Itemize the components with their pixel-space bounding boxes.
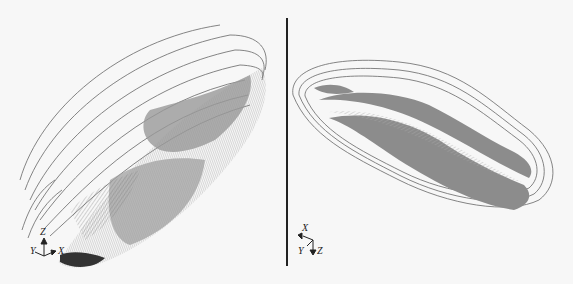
axis-label-x: X [58,245,64,256]
pit-bench-top-shaded [314,85,354,94]
axis-triad-left [35,238,56,256]
axis-label-z: Z [40,226,46,237]
axis-label-y: Y [298,245,304,256]
axis-label-y: Y [30,245,36,256]
figure: Z Y X [0,0,573,284]
pit-plan-render [289,0,573,284]
panel-divider [286,18,288,266]
right-panel-pit-plan-view: X Y Z [289,0,573,284]
left-panel-pit-oblique-view: Z Y X [0,0,286,284]
axis-label-z: Z [317,245,323,256]
pit-oblique-render [0,0,286,284]
axis-label-x: X [302,222,308,233]
